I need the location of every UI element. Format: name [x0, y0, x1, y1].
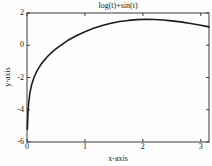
- y-tick-label: 2: [0, 9, 24, 17]
- y-tick-label: 0: [0, 41, 24, 49]
- x-tick-label: 3: [199, 143, 203, 151]
- y-tick-label: -4: [0, 106, 24, 114]
- y-tick-label: -2: [0, 74, 24, 82]
- y-tick-label: -6: [0, 138, 24, 146]
- tick-labels: 0123-6-4-202: [0, 0, 212, 166]
- chart: log(t)+sin(t) x-axis y-axis 0123-6-4-202: [0, 0, 212, 166]
- x-tick-label: 0: [25, 143, 29, 151]
- x-tick-label: 2: [141, 143, 145, 151]
- x-tick-label: 1: [83, 143, 87, 151]
